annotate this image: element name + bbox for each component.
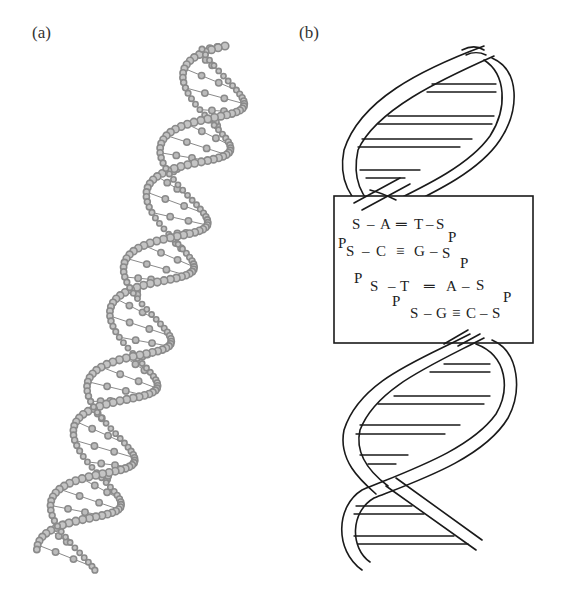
panel-b-line-helix: S – A ═ T – S P P S – C ≡ G – S P P S – … (0, 0, 566, 599)
svg-text:–: – (479, 305, 488, 321)
svg-text:C: C (466, 305, 476, 321)
svg-text:A: A (380, 216, 391, 232)
svg-text:G: G (414, 243, 425, 259)
svg-text:–: – (425, 216, 434, 232)
svg-text:–: – (361, 243, 370, 259)
svg-text:–: – (423, 305, 432, 321)
svg-text:P: P (460, 255, 468, 271)
svg-text:P: P (503, 289, 511, 305)
svg-text:T: T (414, 216, 423, 232)
svg-text:S: S (352, 216, 360, 232)
svg-text:T: T (400, 278, 409, 294)
svg-text:S: S (410, 305, 418, 321)
svg-text:═: ═ (395, 216, 407, 232)
svg-text:A: A (446, 278, 457, 294)
svg-text:═: ═ (423, 278, 435, 294)
svg-text:S: S (370, 278, 378, 294)
top-base-pair-rungs (358, 84, 496, 178)
svg-text:S: S (346, 243, 354, 259)
svg-text:S: S (436, 216, 444, 232)
svg-text:P: P (448, 229, 456, 245)
svg-text:G: G (436, 305, 447, 321)
svg-text:–: – (429, 243, 438, 259)
svg-text:–: – (387, 278, 396, 294)
svg-text:P: P (354, 270, 362, 286)
svg-text:S: S (492, 305, 500, 321)
svg-text:S: S (476, 277, 484, 293)
svg-text:P: P (392, 293, 400, 309)
svg-text:≡: ≡ (452, 305, 460, 321)
svg-text:–: – (461, 278, 470, 294)
svg-text:S: S (442, 245, 450, 261)
svg-text:C: C (376, 243, 386, 259)
svg-text:–: – (366, 216, 375, 232)
svg-text:≡: ≡ (396, 243, 404, 259)
